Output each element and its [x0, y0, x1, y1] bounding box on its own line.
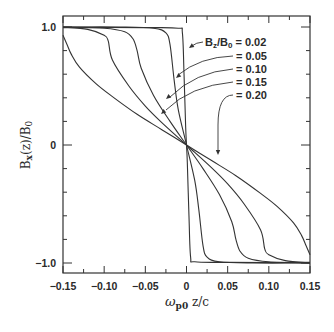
- x-tick-label: 0.05: [217, 280, 238, 292]
- x-axis-label: ωp0 z/c: [165, 294, 209, 311]
- y-tick-label: 1.0: [41, 21, 56, 33]
- legend-label-005: = 0.05: [236, 50, 267, 62]
- legend-label-010: = 0.10: [236, 63, 267, 75]
- arrowhead-icon: [189, 43, 194, 48]
- x-tick-label: 0.15: [300, 280, 321, 292]
- line-chart: −0.15−0.10−0.0500.050.100.15−1.001.0 Bz/…: [0, 0, 334, 332]
- curve-020: [63, 35, 310, 254]
- x-tick-label: 0.10: [259, 280, 280, 292]
- x-tick-label: −0.15: [50, 280, 77, 292]
- arrowhead-icon: [176, 73, 181, 78]
- arrowhead-icon: [216, 150, 220, 155]
- y-tick-label: −1.0: [35, 257, 56, 269]
- legend-label-002: Bz/B0 = 0.02: [205, 36, 266, 50]
- arrowhead-icon: [166, 94, 171, 99]
- y-tick-label: 0: [50, 139, 56, 151]
- legend-label-015: = 0.15: [236, 76, 267, 88]
- legend: Bz/B0 = 0.02 = 0.05 = 0.10 = 0.15 = 0.20: [205, 36, 267, 101]
- data-curves: [63, 27, 310, 263]
- x-tick-label: −0.05: [132, 280, 159, 292]
- x-tick-label: −0.10: [91, 280, 118, 292]
- legend-label-020: = 0.20: [236, 89, 267, 101]
- y-axis-label: Bx(z)/B0: [19, 120, 34, 169]
- x-tick-label: 0: [184, 280, 190, 292]
- tick-labels: −0.15−0.10−0.0500.050.100.15−1.001.0: [35, 21, 320, 292]
